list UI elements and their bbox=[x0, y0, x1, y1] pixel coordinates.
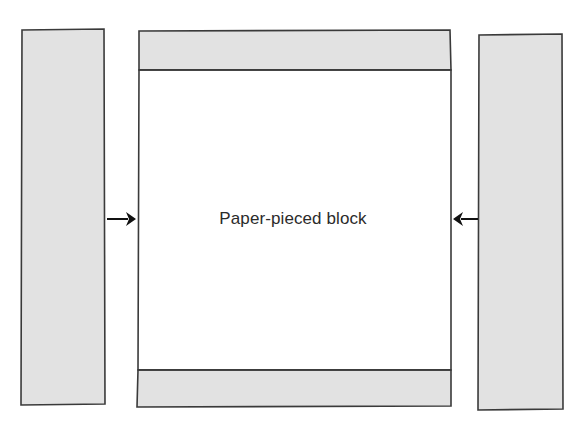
center-block-label: Paper-pieced block bbox=[219, 209, 367, 228]
right-border-strip bbox=[478, 34, 563, 410]
center-block-top-strip bbox=[139, 30, 451, 70]
left-border-strip bbox=[21, 29, 105, 405]
right-arrow bbox=[453, 212, 478, 226]
diagram-canvas: Paper-pieced block bbox=[0, 0, 577, 421]
assembly-diagram: Paper-pieced block bbox=[0, 0, 577, 421]
center-block-bottom-strip bbox=[137, 370, 451, 407]
left-arrow bbox=[107, 212, 136, 226]
